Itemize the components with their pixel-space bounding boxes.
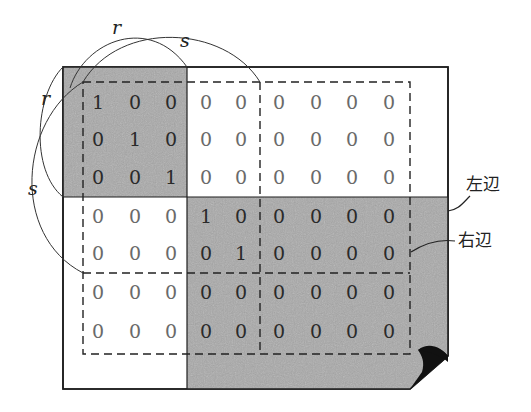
matrix-entry: 0 [337, 162, 367, 192]
matrix-entry: 0 [226, 201, 256, 231]
matrix-entry: 0 [156, 201, 186, 231]
matrix-entry: 0 [120, 87, 150, 117]
matrix-entry: 0 [374, 201, 404, 231]
matrix-entry: 0 [264, 238, 294, 268]
matrix-entry: 1 [120, 124, 150, 154]
matrix-entry: 0 [301, 201, 331, 231]
matrix-entry: 0 [301, 162, 331, 192]
matrix-entry: 1 [191, 201, 221, 231]
matrix-entry: 0 [156, 277, 186, 307]
matrix-entry: 0 [301, 87, 331, 117]
matrix-entry: 0 [264, 87, 294, 117]
matrix-entry: 0 [264, 162, 294, 192]
matrix-entry: 0 [226, 87, 256, 117]
matrix-entry: 0 [374, 87, 404, 117]
matrix-entry: 0 [337, 87, 367, 117]
matrix-entry: 0 [301, 316, 331, 346]
matrix-entry: 0 [337, 277, 367, 307]
matrix-entry: 0 [264, 201, 294, 231]
matrix-entry: 0 [264, 316, 294, 346]
matrix-entry: 0 [120, 277, 150, 307]
label-top-r: r [112, 18, 121, 37]
matrix-entry: 0 [191, 238, 221, 268]
matrix-entry: 0 [191, 162, 221, 192]
matrix-entry: 0 [264, 277, 294, 307]
matrix-entry: 0 [156, 316, 186, 346]
matrix-entry: 0 [374, 277, 404, 307]
matrix-entry: 0 [264, 124, 294, 154]
label-top-s: s [180, 31, 190, 50]
matrix-entry: 0 [337, 238, 367, 268]
label-left-r: r [41, 89, 50, 108]
matrix-entry: 0 [301, 277, 331, 307]
matrix-entry: 0 [226, 124, 256, 154]
matrix-entry: 0 [120, 162, 150, 192]
matrix-entry: 0 [301, 124, 331, 154]
matrix-entry: 0 [337, 124, 367, 154]
matrix-entry: 0 [83, 316, 113, 346]
matrix-entry: 0 [191, 124, 221, 154]
matrix-entry: 0 [226, 316, 256, 346]
matrix-entry: 0 [191, 277, 221, 307]
matrix-entry: 0 [83, 201, 113, 231]
matrix-entry: 0 [226, 162, 256, 192]
matrix-entry: 0 [83, 162, 113, 192]
matrix-entry: 0 [374, 162, 404, 192]
matrix-entry: 1 [83, 87, 113, 117]
matrix-entry: 0 [83, 238, 113, 268]
block-matrix-diagram: r s r s 左辺 右辺 10000000001000000000100000… [0, 0, 531, 412]
leader-left-edge [448, 196, 470, 211]
matrix-entry: 0 [156, 87, 186, 117]
matrix-entry: 0 [191, 316, 221, 346]
matrix-entry: 0 [120, 316, 150, 346]
matrix-entry: 0 [191, 87, 221, 117]
matrix-entry: 0 [374, 316, 404, 346]
matrix-entry: 0 [337, 201, 367, 231]
matrix-entry: 0 [374, 124, 404, 154]
matrix-entry: 0 [337, 316, 367, 346]
matrix-entry: 0 [374, 238, 404, 268]
matrix-entry: 0 [156, 124, 186, 154]
matrix-entry: 1 [156, 162, 186, 192]
label-left-s: s [28, 179, 38, 198]
matrix-entry: 0 [120, 201, 150, 231]
matrix-entry: 0 [156, 238, 186, 268]
matrix-entry: 0 [83, 277, 113, 307]
matrix-entry: 0 [226, 277, 256, 307]
label-left-edge: 左辺 [466, 176, 500, 193]
matrix-entry: 0 [83, 124, 113, 154]
matrix-entry: 1 [226, 238, 256, 268]
matrix-entry: 0 [301, 238, 331, 268]
matrix-entry: 0 [120, 238, 150, 268]
label-right-edge: 右辺 [458, 232, 492, 249]
